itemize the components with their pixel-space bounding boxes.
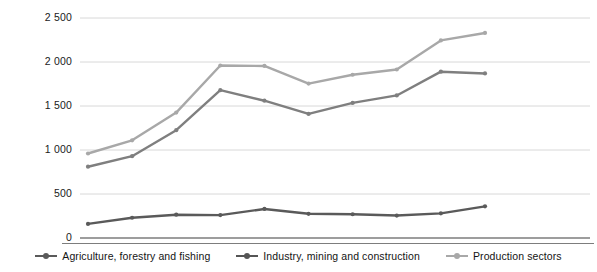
y-axis-tick: 500: [0, 188, 72, 200]
y-axis-tick: 2 000: [0, 56, 72, 68]
y-axis-tick: 1 500: [0, 100, 72, 112]
data-point-marker: [395, 213, 399, 217]
data-point-marker: [483, 204, 487, 208]
data-point-marker: [86, 165, 90, 169]
y-axis-tick-label: 500: [0, 188, 72, 199]
data-point-marker: [306, 81, 310, 85]
line-chart: 05001 0001 5002 0002 500 Agriculture, fo…: [0, 0, 597, 272]
data-point-marker: [218, 88, 222, 92]
data-point-marker: [395, 67, 399, 71]
data-point-marker: [130, 138, 134, 142]
series-0: [86, 204, 487, 226]
data-point-marker: [174, 111, 178, 115]
data-point-marker: [174, 128, 178, 132]
line-dot-marker: [35, 252, 57, 261]
legend-dot: [244, 253, 250, 259]
chart-plot-area: [0, 0, 597, 272]
data-series-group: [86, 31, 487, 226]
legend-label: Industry, mining and construction: [263, 251, 420, 262]
line-dot-marker: [236, 252, 258, 261]
series-line: [88, 33, 485, 154]
data-point-marker: [262, 207, 266, 211]
y-axis-tick: 1 000: [0, 144, 72, 156]
series-2: [86, 31, 487, 156]
data-point-marker: [306, 112, 310, 116]
series-line: [88, 72, 485, 167]
y-axis-tick-label: 1 000: [0, 144, 72, 155]
data-point-marker: [262, 99, 266, 103]
data-point-marker: [351, 101, 355, 105]
line-dot-marker: [446, 252, 468, 261]
data-point-marker: [86, 222, 90, 226]
data-point-marker: [395, 93, 399, 97]
data-point-marker: [483, 31, 487, 35]
data-point-marker: [86, 151, 90, 155]
data-point-marker: [439, 70, 443, 74]
data-point-marker: [130, 216, 134, 220]
data-point-marker: [306, 212, 310, 216]
data-point-marker: [483, 71, 487, 75]
y-axis-tick-label: 1 500: [0, 100, 72, 111]
legend-item-2[interactable]: Production sectors: [446, 251, 562, 262]
legend-label: Agriculture, forestry and fishing: [62, 251, 210, 262]
legend-separator: [62, 243, 594, 244]
data-point-marker: [218, 213, 222, 217]
legend-dot: [454, 253, 460, 259]
legend-dot: [43, 253, 49, 259]
legend-label: Production sectors: [473, 251, 562, 262]
data-point-marker: [351, 73, 355, 77]
data-point-marker: [130, 154, 134, 158]
data-point-marker: [439, 211, 443, 215]
data-point-marker: [218, 63, 222, 67]
data-point-marker: [174, 213, 178, 217]
legend-item-1[interactable]: Industry, mining and construction: [236, 251, 420, 262]
y-axis-tick-label: 2 500: [0, 12, 72, 23]
data-point-marker: [351, 212, 355, 216]
chart-legend: Agriculture, forestry and fishingIndustr…: [0, 246, 597, 266]
series-1: [86, 70, 487, 169]
data-point-marker: [439, 38, 443, 42]
legend-item-0[interactable]: Agriculture, forestry and fishing: [35, 251, 210, 262]
y-axis-tick-label: 2 000: [0, 56, 72, 67]
gridlines: [80, 18, 590, 238]
y-axis-tick: 2 500: [0, 12, 72, 24]
data-point-marker: [262, 64, 266, 68]
series-line: [88, 206, 485, 224]
y-axis-tick-label: 0: [0, 232, 72, 243]
